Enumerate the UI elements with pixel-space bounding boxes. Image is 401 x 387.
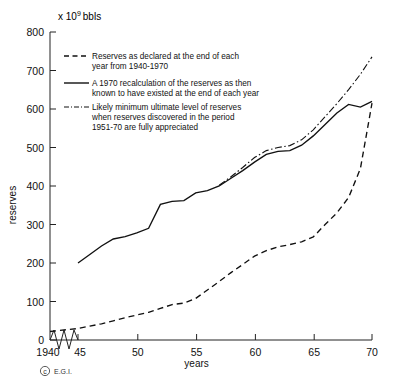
svg-text:200: 200 [26, 257, 44, 269]
svg-text:600: 600 [26, 103, 44, 115]
svg-text:0: 0 [38, 334, 44, 346]
copyright-mark: c E.G.I. [40, 366, 72, 375]
x-axis-title: years [184, 358, 208, 369]
copyright-symbol: c [43, 368, 47, 375]
svg-text:500: 500 [26, 142, 44, 154]
svg-text:60: 60 [250, 346, 262, 358]
reserves-line-chart: x 109bbls 800 700 600 500 400 300 200 [0, 0, 401, 387]
copyright-text: E.G.I. [54, 368, 72, 375]
svg-text:800: 800 [26, 26, 44, 38]
legend-label-recalculation-line2: known to have existed at the end of each… [92, 89, 259, 98]
svg-text:65: 65 [308, 346, 320, 358]
legend-label-recalculation-line1: A 1970 recalculation of the reserves as … [92, 79, 252, 88]
svg-text:1940: 1940 [36, 346, 60, 358]
y-axis-ticks [50, 32, 56, 340]
y-axis-title: reserves [7, 186, 18, 224]
svg-text:50: 50 [132, 346, 144, 358]
x-axis-tick-labels: 1940 45 50 55 60 65 70 [36, 346, 378, 358]
svg-text:300: 300 [26, 219, 44, 231]
svg-text:700: 700 [26, 65, 44, 77]
chart-legend: Reserves as declared at the end of each … [64, 52, 259, 132]
legend-label-declared-line2: year from 1940-1970 [92, 62, 168, 71]
legend-label-declared-line1: Reserves as declared at the end of each [92, 52, 239, 61]
legend-label-likely-minimum-line2: when reserves discovered in the period [91, 113, 235, 122]
svg-text:55: 55 [191, 346, 203, 358]
x-axis-ticks [78, 334, 372, 340]
unit-header: x 109bbls [58, 10, 101, 22]
series-line-declared-reserves [50, 103, 372, 331]
legend-label-likely-minimum-line1: Likely minimum ultimate level of reserve… [92, 103, 241, 112]
svg-text:70: 70 [366, 346, 378, 358]
series-line-likely-minimum-ultimate [219, 57, 372, 185]
svg-text:400: 400 [26, 180, 44, 192]
y-axis-tick-labels: 800 700 600 500 400 300 200 100 0 [26, 26, 44, 346]
chart-canvas: x 109bbls 800 700 600 500 400 300 200 [0, 0, 401, 387]
svg-text:100: 100 [26, 296, 44, 308]
svg-text:45: 45 [74, 346, 86, 358]
legend-label-likely-minimum-line3: 1951-70 are fully appreciated [92, 123, 199, 132]
